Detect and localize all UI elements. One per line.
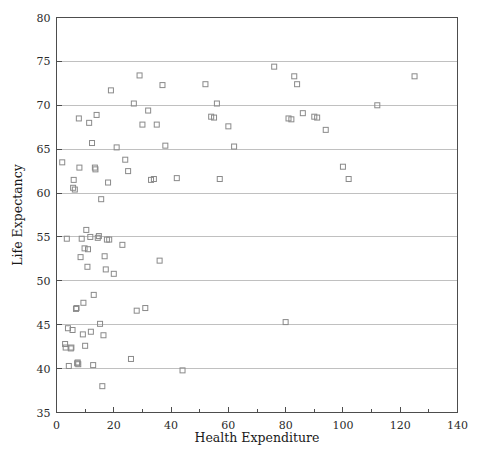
data-point <box>91 292 96 297</box>
data-point <box>154 122 159 127</box>
data-point <box>160 83 165 88</box>
data-point <box>300 111 305 116</box>
y-tick-label: 60 <box>37 187 51 200</box>
y-tick-label: 65 <box>37 143 51 156</box>
scatter-plot-canvas: 35404550556065707580020406080100120140He… <box>0 0 488 456</box>
data-point <box>98 321 103 326</box>
data-point <box>71 185 76 190</box>
y-tick-label: 45 <box>37 319 51 332</box>
y-tick-label: 70 <box>37 99 51 112</box>
data-point <box>292 74 297 79</box>
data-point <box>80 332 85 337</box>
data-point <box>120 242 125 247</box>
data-point <box>203 82 208 87</box>
data-point <box>90 141 95 146</box>
y-tick-label: 50 <box>37 275 51 288</box>
data-point <box>108 88 113 93</box>
data-point <box>272 64 277 69</box>
x-tick-label: 40 <box>164 419 178 432</box>
scatter-plot-figure: 35404550556065707580020406080100120140He… <box>0 0 488 456</box>
data-point <box>100 384 105 389</box>
data-point <box>226 124 231 129</box>
data-point <box>83 343 88 348</box>
y-axis: 35404550556065707580 <box>37 12 62 420</box>
data-point <box>106 180 111 185</box>
data-point <box>323 127 328 132</box>
x-tick-label: 20 <box>107 419 121 432</box>
data-point <box>295 82 300 87</box>
x-axis-title: Health Expenditure <box>195 430 320 445</box>
x-axis: 020406080100120140 <box>53 407 468 432</box>
plot-frame-rect <box>57 18 458 413</box>
data-point <box>340 164 345 169</box>
data-point <box>76 116 81 121</box>
data-point <box>163 143 168 148</box>
data-point <box>84 227 89 232</box>
data-point <box>81 300 86 305</box>
data-point <box>157 258 162 263</box>
data-point <box>88 329 93 334</box>
data-point <box>126 169 131 174</box>
data-point <box>66 363 71 368</box>
y-tick-label: 35 <box>37 407 51 420</box>
data-point <box>91 363 96 368</box>
data-point <box>134 308 139 313</box>
data-point <box>103 267 108 272</box>
x-tick-label: 0 <box>53 419 60 432</box>
x-tick-label: 140 <box>447 419 468 432</box>
data-point <box>137 73 142 78</box>
data-point <box>71 177 76 182</box>
x-tick-label: 120 <box>390 419 411 432</box>
data-point <box>77 165 82 170</box>
data-point <box>85 264 90 269</box>
data-point <box>232 144 237 149</box>
data-point <box>102 254 107 259</box>
data-point <box>111 271 116 276</box>
data-point <box>99 197 104 202</box>
data-point <box>128 356 133 361</box>
data-point <box>217 177 222 182</box>
y-axis-title: Life Expectancy <box>10 163 25 265</box>
data-point <box>94 112 99 117</box>
data-point <box>412 74 417 79</box>
data-point <box>123 157 128 162</box>
gridlines <box>57 61 458 368</box>
data-point <box>143 306 148 311</box>
plot-frame <box>57 18 458 413</box>
y-tick-label: 40 <box>37 363 51 376</box>
y-tick-label: 75 <box>37 55 51 68</box>
data-point <box>87 120 92 125</box>
data-point <box>101 333 106 338</box>
y-tick-label: 55 <box>37 231 51 244</box>
x-tick-label: 100 <box>332 419 353 432</box>
data-points <box>60 64 417 389</box>
data-point <box>60 160 65 165</box>
data-point <box>72 187 77 192</box>
data-point <box>140 122 145 127</box>
y-tick-label: 80 <box>37 12 51 25</box>
data-point <box>174 176 179 181</box>
data-point <box>78 255 83 260</box>
data-point <box>283 320 288 325</box>
data-point <box>146 108 151 113</box>
data-point <box>346 177 351 182</box>
